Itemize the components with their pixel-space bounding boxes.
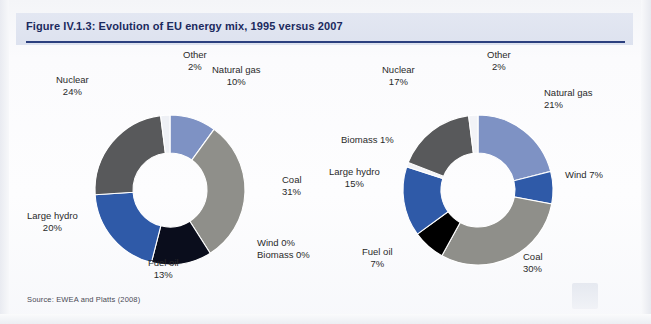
slice-label-value: 31% — [282, 186, 302, 198]
slice-label-natural-gas: Natural gas21% — [544, 87, 593, 110]
scan-edge-bottom — [0, 314, 651, 324]
slice-label-biomass: Biomass 1% — [341, 134, 394, 146]
slice-label-name: Biomass — [257, 249, 296, 260]
slice-label-large-hydro: Large hydro15% — [329, 166, 380, 189]
slice-label-value: 7% — [362, 258, 393, 270]
slice-label-value: 7% — [589, 169, 603, 180]
slice-label-name: Nuclear — [56, 74, 89, 86]
slice-label-other: Other2% — [487, 49, 511, 72]
slice-label-value: 0% — [281, 237, 295, 248]
slice-label-value: 10% — [212, 76, 261, 88]
slice-label-value: 30% — [523, 263, 543, 275]
slice-label-value: 15% — [329, 178, 380, 190]
slice-label-value: 1% — [380, 134, 394, 145]
slice-label-name: Natural gas — [212, 64, 261, 76]
slice-label-value: 21% — [544, 99, 593, 111]
slice-label-biomass: Biomass 0% — [257, 249, 310, 261]
slice-label-name: Wind — [565, 169, 589, 180]
slice-label-name: Large hydro — [27, 210, 78, 222]
title-underline-rule — [26, 41, 625, 43]
slice-label-wind: Wind 7% — [565, 169, 603, 181]
slice-label-fuel-oil: Fuel oil13% — [148, 257, 179, 280]
source-note: Source: EWEA and Platts (2008) — [27, 295, 140, 304]
donut-slice-nuclear[interactable] — [95, 116, 165, 195]
slice-label-name: Other — [487, 49, 511, 61]
slice-label-value: 24% — [56, 86, 89, 98]
slice-label-name: Fuel oil — [362, 246, 393, 258]
slice-label-coal: Coal30% — [523, 251, 543, 274]
slice-label-nuclear: Nuclear24% — [56, 74, 89, 97]
slice-label-large-hydro: Large hydro20% — [27, 210, 78, 233]
figure-title: Figure IV.1.3: Evolution of EU energy mi… — [26, 20, 343, 32]
slice-label-natural-gas: Natural gas10% — [212, 64, 261, 87]
figure-container: Figure IV.1.3: Evolution of EU energy mi… — [0, 0, 651, 324]
donut-slice-large-hydro[interactable] — [95, 192, 161, 262]
slice-label-name: Other — [183, 49, 207, 61]
donut-chart-2007: Other2%Nuclear17%Natural gas21%Wind 7%Co… — [320, 50, 630, 290]
donut-chart-1995: Other2%Natural gas10%Nuclear24%Coal31%Wi… — [20, 50, 330, 290]
slice-label-nuclear: Nuclear17% — [382, 64, 415, 87]
slice-label-name: Biomass — [341, 134, 380, 145]
slice-label-name: Large hydro — [329, 166, 380, 178]
slice-label-value: 2% — [183, 61, 207, 73]
slice-label-value: 17% — [382, 76, 415, 88]
slice-label-coal: Coal31% — [282, 174, 302, 197]
slice-label-value: 13% — [148, 269, 179, 281]
slice-label-fuel-oil: Fuel oil7% — [362, 246, 393, 269]
slice-label-name: Fuel oil — [148, 257, 179, 269]
slice-label-value: 20% — [27, 222, 78, 234]
charts-area: Other2%Natural gas10%Nuclear24%Coal31%Wi… — [0, 50, 651, 290]
slice-label-wind: Wind 0% — [257, 237, 295, 249]
slice-label-name: Wind — [257, 237, 281, 248]
slice-label-value: 0% — [296, 249, 310, 260]
slice-label-name: Coal — [523, 251, 543, 263]
slice-label-name: Nuclear — [382, 64, 415, 76]
slice-label-name: Coal — [282, 174, 302, 186]
slice-label-other: Other2% — [183, 49, 207, 72]
slice-label-value: 2% — [487, 61, 511, 73]
slice-label-name: Natural gas — [544, 87, 593, 99]
donut-slice-natural-gas[interactable] — [478, 115, 551, 181]
